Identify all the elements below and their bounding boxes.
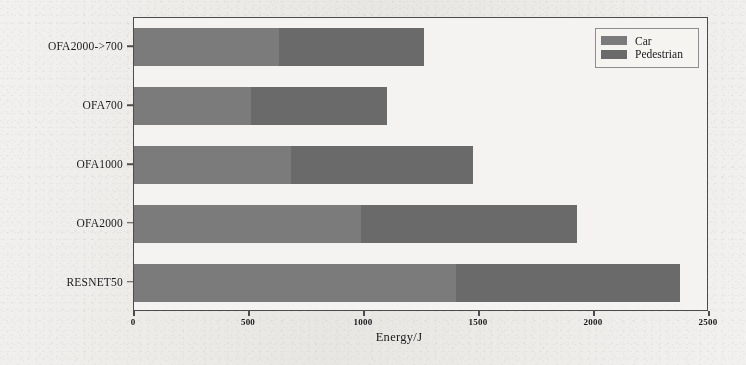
x-tick-mark <box>478 311 480 316</box>
legend-swatch-pedestrian <box>601 50 627 59</box>
bar-segment-pedestrian <box>291 146 473 184</box>
x-axis-title: Energy/J <box>0 330 746 345</box>
legend-label-pedestrian: Pedestrian <box>635 48 683 60</box>
legend-item-pedestrian[interactable]: Pedestrian <box>601 48 693 60</box>
bar-segment-pedestrian <box>456 264 680 302</box>
legend-label-car: Car <box>635 35 652 47</box>
x-tick-label: 1000 <box>354 317 373 327</box>
y-tick-label: OFA2000 <box>0 217 123 229</box>
y-tick-mark <box>127 281 133 283</box>
x-tick-label: 0 <box>131 317 136 327</box>
y-tick-label: OFA2000->700 <box>0 40 123 52</box>
x-tick-label: 500 <box>241 317 255 327</box>
x-tick-mark <box>708 311 710 316</box>
y-tick-label: OFA1000 <box>0 158 123 170</box>
bar-ofa2000 <box>134 205 577 243</box>
bar-segment-car <box>134 205 361 243</box>
bar-ofa1000 <box>134 146 473 184</box>
x-axis-title-text: Energy/J <box>376 330 423 345</box>
chart-legend: Car Pedestrian <box>595 28 699 68</box>
bar-segment-car <box>134 87 251 125</box>
bar-ofa2000-700 <box>134 28 424 66</box>
bar-segment-pedestrian <box>361 205 577 243</box>
bar-segment-car <box>134 264 456 302</box>
y-tick-label: OFA700 <box>0 99 123 111</box>
bar-segment-pedestrian <box>279 28 425 66</box>
y-tick-label: RESNET50 <box>0 276 123 288</box>
x-tick-mark <box>133 311 135 316</box>
x-tick-label: 1500 <box>469 317 488 327</box>
bar-segment-car <box>134 28 279 66</box>
y-tick-mark <box>127 46 133 48</box>
x-tick-label: 2500 <box>699 317 718 327</box>
bar-resnet50 <box>134 264 680 302</box>
x-tick-mark <box>363 311 365 316</box>
y-tick-mark <box>127 163 133 165</box>
bar-segment-car <box>134 146 291 184</box>
legend-swatch-car <box>601 36 627 45</box>
bar-ofa700 <box>134 87 387 125</box>
y-axis-labels: OFA2000->700OFA700OFA1000OFA2000RESNET50 <box>0 0 133 365</box>
x-tick-label: 2000 <box>584 317 603 327</box>
x-tick-mark <box>248 311 250 316</box>
x-tick-mark <box>593 311 595 316</box>
y-tick-mark <box>127 104 133 106</box>
stacked-bar-chart: OFA2000->700OFA700OFA1000OFA2000RESNET50… <box>0 0 746 365</box>
bar-segment-pedestrian <box>251 87 386 125</box>
legend-item-car[interactable]: Car <box>601 35 693 47</box>
y-tick-mark <box>127 222 133 224</box>
